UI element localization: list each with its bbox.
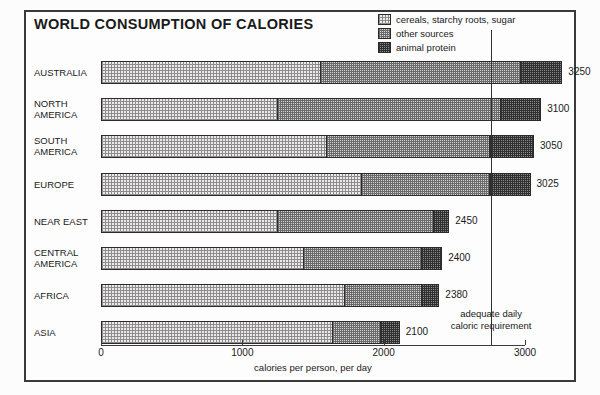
bar-segment-mid <box>361 174 488 195</box>
bar-segment-dark <box>489 174 530 195</box>
bar-near east <box>101 210 449 233</box>
bar-segment-dark <box>520 62 562 83</box>
bar-value-label: 3250 <box>568 61 590 82</box>
bar-segment-mid <box>332 322 380 343</box>
bar-segment-mid <box>344 285 421 306</box>
bar-value-label: 2400 <box>448 247 470 268</box>
bar-segment-light <box>102 99 277 120</box>
category-label: CENTRAL AMERICA <box>34 247 78 269</box>
category-label: EUROPE <box>34 179 74 190</box>
bar-segment-mid <box>277 99 500 120</box>
x-axis-tick-label: 1000 <box>231 347 253 358</box>
category-label: SOUTH AMERICA <box>34 135 77 157</box>
bar-segment-dark <box>421 285 438 306</box>
bar-segment-mid <box>277 211 433 232</box>
bar-europe <box>101 173 531 196</box>
reference-line-annotation: adequate daily caloric requirement <box>401 308 581 332</box>
bar-segment-dark <box>489 136 534 157</box>
bar-value-label: 2450 <box>455 210 477 231</box>
x-axis-tick <box>242 340 243 345</box>
bar-segment-light <box>102 322 332 343</box>
category-label: AUSTRALIA <box>34 67 87 78</box>
bar-value-label: 3100 <box>547 98 569 119</box>
bar-segment-dark <box>421 248 441 269</box>
bar-asia <box>101 321 400 344</box>
category-label: NORTH AMERICA <box>34 98 77 120</box>
bar-segment-light <box>102 136 326 157</box>
bar-segment-mid <box>303 248 421 269</box>
bar-segment-dark <box>380 322 399 343</box>
bar-segment-light <box>102 174 361 195</box>
bar-segment-mid <box>320 62 519 83</box>
bar-south-america <box>101 135 534 158</box>
bar-value-label: 2380 <box>445 284 467 305</box>
plot-area: AUSTRALIA3250NORTH AMERICA3100SOUTH AMER… <box>0 0 600 395</box>
x-axis-tick-label: 3000 <box>514 347 536 358</box>
bar-segment-dark <box>500 99 540 120</box>
chart-page: WORLD CONSUMPTION OF CALORIES cereals, s… <box>0 0 600 395</box>
x-axis-tick-label: 2000 <box>373 347 395 358</box>
x-axis-label: calories per person, per day <box>101 362 525 373</box>
x-axis-tick-label: 0 <box>98 347 104 358</box>
x-axis-tick <box>384 340 385 345</box>
bar-north-america <box>101 98 541 121</box>
bar-australia <box>101 61 562 84</box>
x-axis-tick <box>101 340 102 345</box>
category-label: NEAR EAST <box>34 216 88 227</box>
bar-value-label: 3025 <box>537 173 559 194</box>
bar-africa <box>101 284 439 307</box>
x-axis-line <box>101 345 525 346</box>
category-label: ASIA <box>34 327 56 338</box>
x-axis-tick <box>525 340 526 345</box>
bar-segment-light <box>102 248 303 269</box>
bar-central-america <box>101 247 442 270</box>
bar-segment-mid <box>326 136 489 157</box>
bar-segment-light <box>102 211 277 232</box>
bar-segment-light <box>102 62 320 83</box>
category-label: AFRICA <box>34 290 69 301</box>
bar-segment-light <box>102 285 344 306</box>
reference-line <box>491 30 492 346</box>
bar-segment-dark <box>433 211 448 232</box>
bar-value-label: 3050 <box>540 135 562 156</box>
